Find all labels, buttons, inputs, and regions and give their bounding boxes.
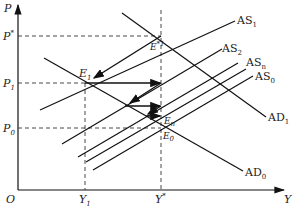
- as1-curve: [40, 21, 235, 110]
- as0-label: AS0: [254, 70, 275, 85]
- y1-label: Y1: [79, 193, 91, 208]
- ad1-curve: [122, 13, 266, 117]
- x-axis-label: Y: [284, 193, 293, 206]
- ad0-curve: [44, 58, 243, 171]
- e-star-label: E*1: [149, 40, 165, 52]
- ad1-label: AD1: [267, 111, 289, 126]
- arrow-down-left-2: [130, 83, 161, 103]
- as1-label: AS1: [236, 14, 257, 29]
- p-star-label: P*: [2, 29, 14, 43]
- asn-label: ASn: [245, 56, 266, 71]
- y-axis-label: P: [3, 2, 12, 15]
- e0-label: E0: [162, 131, 175, 143]
- e1-label: E1: [78, 67, 92, 82]
- origin-label: O: [6, 193, 15, 206]
- ad0-label: AD0: [244, 166, 266, 181]
- p1-label: P1: [2, 77, 15, 92]
- p0-label: P0: [2, 122, 15, 137]
- as2-label: AS2: [221, 42, 242, 57]
- asn-curve: [78, 63, 238, 157]
- ad-as-diagram: P Y O P* P1 P0 Y1 Y* AS1 AS2 ASn AS0 AD1…: [0, 0, 305, 213]
- y-star-label: Y*: [155, 192, 166, 206]
